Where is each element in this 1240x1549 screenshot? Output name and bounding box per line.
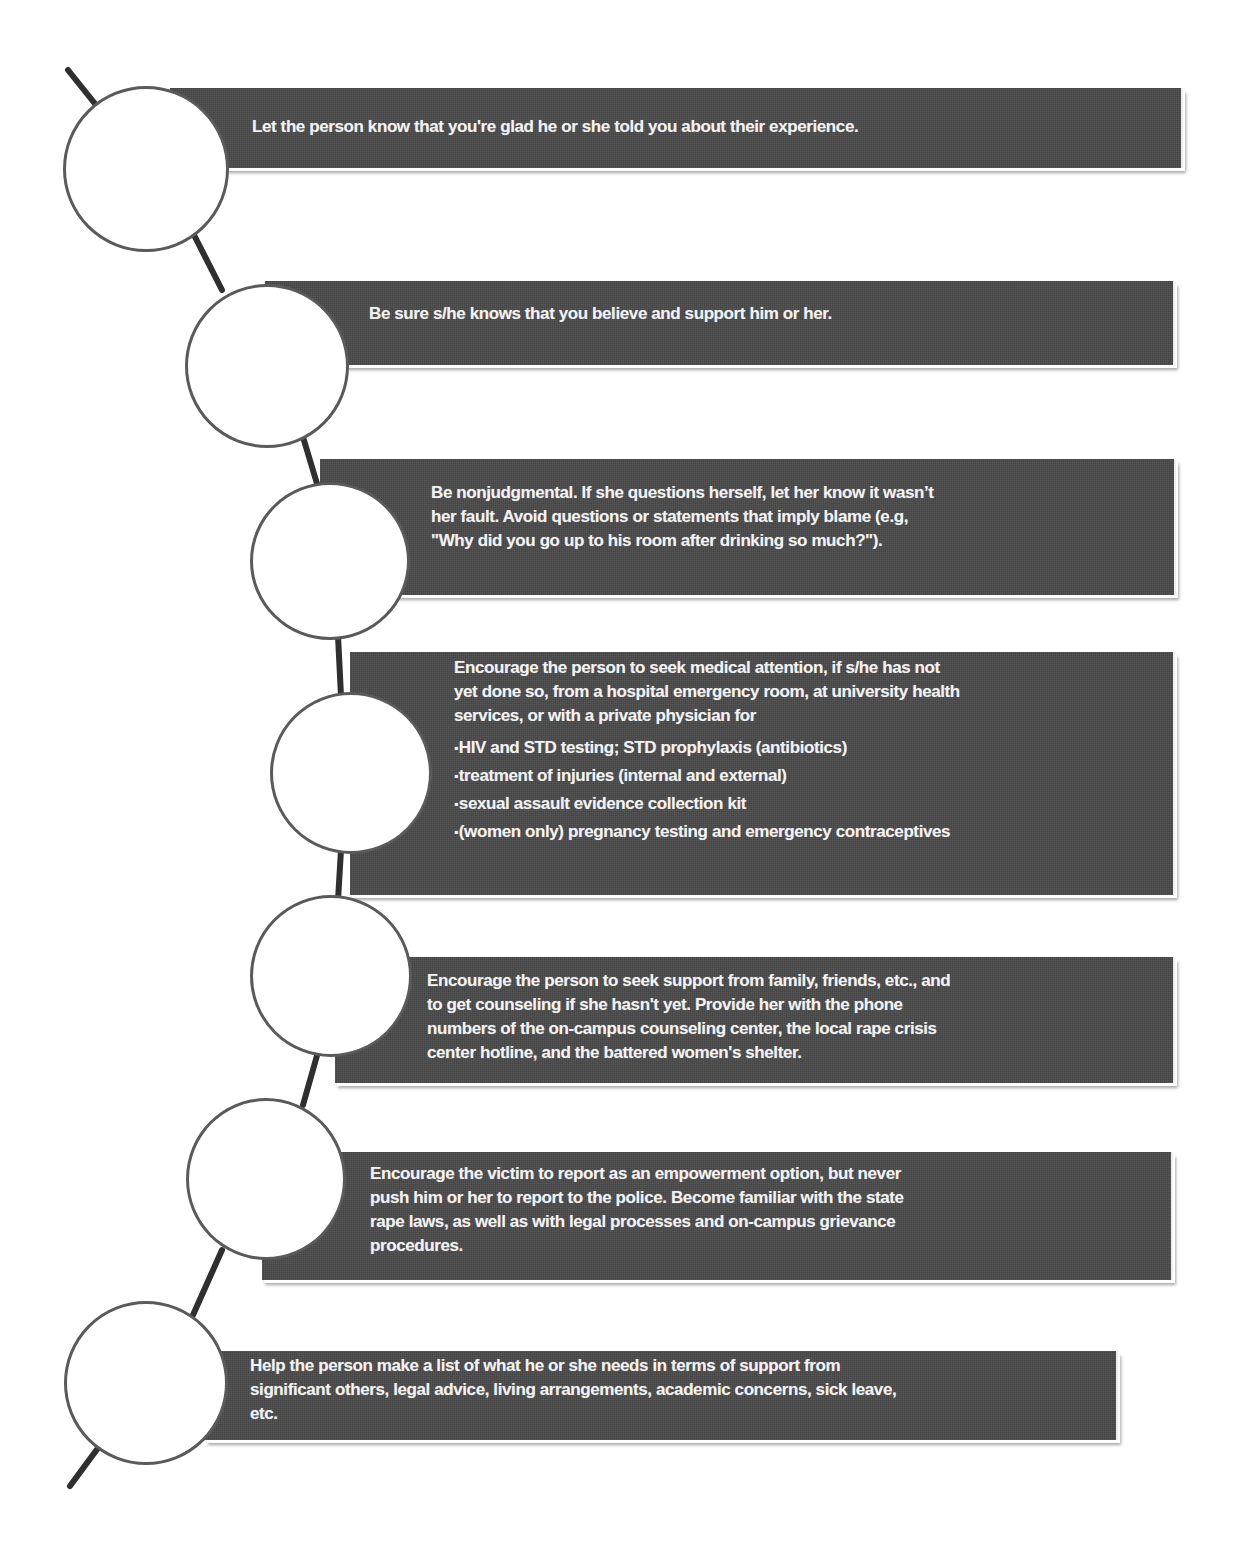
step-7-text: Help the person make a list of what he o…	[250, 1354, 896, 1426]
step-6-text: Encourage the victim to report as an emp…	[370, 1162, 904, 1258]
step-4-text: Encourage the person to seek medical att…	[454, 656, 960, 846]
step-3-line-1: Be nonjudgmental. If she questions herse…	[431, 481, 934, 505]
step-6-line-2: push him or her to report to the police.…	[370, 1186, 904, 1210]
step-4-bullet-list: HIV and STD testing; STD prophylaxis (an…	[454, 734, 960, 846]
step-6-line-3: rape laws, as well as with legal process…	[370, 1210, 904, 1234]
timeline-diagram: Let the person know that you're glad he …	[0, 0, 1240, 1549]
step-4-line-3: services, or with a private physician fo…	[454, 704, 960, 728]
step-5-line-1: Encourage the person to seek support fro…	[427, 969, 950, 993]
step-4-bullet-4: (women only) pregnancy testing and emerg…	[454, 818, 960, 846]
step-5-text: Encourage the person to seek support fro…	[427, 969, 950, 1065]
step-3-line-3: "Why did you go up to his room after dri…	[431, 529, 934, 553]
step-3-circle	[250, 482, 410, 640]
step-4-line-1: Encourage the person to seek medical att…	[454, 656, 960, 680]
step-1-circle	[63, 86, 229, 252]
step-3-line-2: her fault. Avoid questions or statements…	[431, 505, 934, 529]
step-7-circle	[64, 1301, 228, 1465]
step-5-line-2: to get counseling if she hasn't yet. Pro…	[427, 993, 950, 1017]
step-2-text: Be sure s/he knows that you believe and …	[369, 302, 832, 326]
step-1-text: Let the person know that you're glad he …	[252, 115, 858, 139]
step-4-bullet-2: treatment of injuries (internal and exte…	[454, 762, 960, 790]
step-4-line-2: yet done so, from a hospital emergency r…	[454, 680, 960, 704]
step-5-line-4: center hotline, and the battered women's…	[427, 1041, 950, 1065]
step-6-box: Encourage the victim to report as an emp…	[262, 1152, 1173, 1280]
step-4-box: Encourage the person to seek medical att…	[350, 652, 1175, 895]
step-7-line-1: Help the person make a list of what he o…	[250, 1354, 896, 1378]
step-2-circle	[185, 284, 349, 448]
step-6-circle	[186, 1098, 346, 1260]
step-6-line-4: procedures.	[370, 1234, 904, 1258]
step-3-box: Be nonjudgmental. If she questions herse…	[320, 459, 1176, 595]
step-4-bullet-1: HIV and STD testing; STD prophylaxis (an…	[454, 734, 960, 762]
step-4-circle	[270, 692, 432, 854]
step-3-text: Be nonjudgmental. If she questions herse…	[431, 481, 934, 553]
step-7-box: Help the person make a list of what he o…	[205, 1351, 1118, 1440]
step-6-line-1: Encourage the victim to report as an emp…	[370, 1162, 904, 1186]
step-5-box: Encourage the person to seek support fro…	[335, 957, 1175, 1083]
step-5-circle	[250, 895, 412, 1057]
step-1-box: Let the person know that you're glad he …	[170, 88, 1183, 168]
step-4-bullet-3: sexual assault evidence collection kit	[454, 790, 960, 818]
step-7-line-2: significant others, legal advice, living…	[250, 1378, 896, 1402]
step-5-line-3: numbers of the on-campus counseling cent…	[427, 1017, 950, 1041]
step-2-box: Be sure s/he knows that you believe and …	[265, 281, 1175, 365]
step-7-line-3: etc.	[250, 1402, 896, 1426]
